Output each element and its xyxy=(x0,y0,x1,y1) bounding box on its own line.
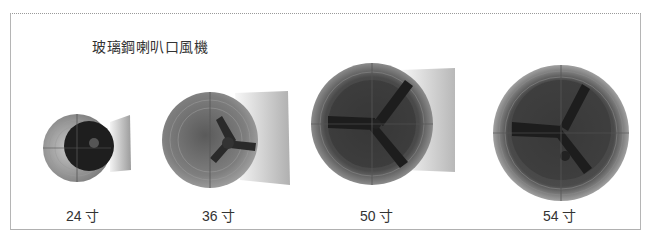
fan-icon xyxy=(310,60,460,190)
fan-label-36: 36 寸 xyxy=(202,205,235,225)
fan-label-50: 50 寸 xyxy=(360,205,393,225)
fan-label-24: 24 寸 xyxy=(66,205,99,225)
fan-icon xyxy=(490,64,635,204)
fan-icon xyxy=(38,110,138,190)
product-title: 玻璃鋼喇叭口風機 xyxy=(92,36,208,56)
fan-image-24 xyxy=(38,110,138,190)
fan-image-50 xyxy=(310,60,460,190)
fan-image-36 xyxy=(160,88,295,193)
fan-label-54: 54 寸 xyxy=(543,205,576,225)
fan-icon xyxy=(160,88,295,193)
fan-image-54 xyxy=(490,64,635,204)
